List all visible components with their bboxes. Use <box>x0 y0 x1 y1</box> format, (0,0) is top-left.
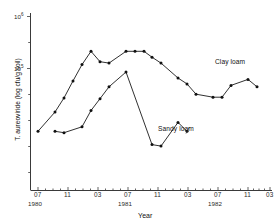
data-point <box>160 145 163 148</box>
data-point <box>125 71 128 74</box>
data-point <box>90 109 93 112</box>
data-point <box>177 77 180 80</box>
data-point <box>37 130 40 133</box>
data-point <box>54 130 57 133</box>
data-point <box>212 96 215 99</box>
x-tick-label-4: 11 <box>154 192 161 198</box>
data-point <box>151 56 154 59</box>
chart-canvas <box>0 0 278 224</box>
x-tick-label-2: 03 <box>94 192 101 198</box>
axes <box>31 13 273 191</box>
data-point <box>256 85 259 88</box>
series-line <box>55 72 187 146</box>
x-tick-label-6: 07 <box>214 192 221 198</box>
y-tick-top-base: 10 <box>14 13 21 20</box>
data-point <box>99 97 102 100</box>
data-point <box>195 93 198 96</box>
data-point <box>81 125 84 128</box>
data-point <box>108 62 111 65</box>
data-point <box>160 62 163 65</box>
chart-svg <box>0 0 278 224</box>
annotation-clay-loam: Clay loam <box>215 59 245 66</box>
data-point <box>186 82 189 85</box>
annotation-sandy-loam: Sandy loam <box>158 126 194 133</box>
data-point <box>247 78 250 81</box>
data-point <box>230 84 233 87</box>
x-tick-label-0: 07 <box>34 192 41 198</box>
data-point <box>125 50 128 53</box>
x-tick-label-7: 11 <box>244 192 251 198</box>
x-tick-label-8: 03 <box>266 192 273 198</box>
y-axis-ticks <box>27 17 31 173</box>
data-point <box>63 96 66 99</box>
data-point <box>221 96 224 99</box>
chart-figure: 106 105 T. aureoviride (log cfu/g soil) … <box>0 0 278 224</box>
data-point <box>63 131 66 134</box>
data-point <box>143 50 146 53</box>
x-tick-label-5: 03 <box>184 192 191 198</box>
x-axis-title: Year <box>138 212 153 219</box>
data-point <box>90 50 93 53</box>
x-tick-label-3: 07 <box>124 192 131 198</box>
y-tick-top-exp: 6 <box>21 12 24 17</box>
data-point <box>151 143 154 146</box>
data-point <box>99 60 102 63</box>
y-tick-label-top: 106 <box>14 12 23 20</box>
x-axis-ticks <box>38 187 270 191</box>
y-tick-mid-exp: 5 <box>21 64 24 69</box>
y-axis-title: T. aureoviride (log cfu/g soil) <box>14 25 21 175</box>
data-point <box>72 79 75 82</box>
data-point <box>134 50 137 53</box>
data-point <box>54 111 57 114</box>
x-tick-label-1: 11 <box>64 192 71 198</box>
x-year-label-1981: 1981 <box>118 201 132 207</box>
data-point <box>177 121 180 124</box>
data-point <box>81 63 84 66</box>
data-point <box>108 85 111 88</box>
x-year-label-1982: 1982 <box>208 201 222 207</box>
x-year-label-1980: 1980 <box>28 201 42 207</box>
